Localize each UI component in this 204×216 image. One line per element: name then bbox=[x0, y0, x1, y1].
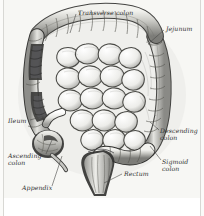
label-jejunum: Jejunum bbox=[166, 25, 193, 32]
label-rectum: Rectum bbox=[124, 170, 149, 177]
label-ascending-colon: Ascending colon bbox=[8, 152, 52, 166]
label-sigmoid-colon-line1: Sigmoid bbox=[162, 158, 188, 165]
plate-bottom-margin bbox=[4, 198, 200, 216]
label-transverse-colon: Transverse colon bbox=[78, 9, 133, 16]
label-sigmoid-colon-line2: colon bbox=[162, 165, 179, 172]
label-descending-colon: Descending colon bbox=[160, 127, 204, 141]
label-ascending-colon-line2: colon bbox=[8, 159, 25, 166]
label-appendix: Appendix bbox=[22, 184, 52, 191]
illustration-figure: Transverse colon Jejunum Descending colo… bbox=[0, 0, 204, 216]
label-ileum: Ileum bbox=[8, 117, 26, 124]
label-descending-colon-line2: colon bbox=[160, 134, 177, 141]
label-sigmoid-colon: Sigmoid colon bbox=[162, 158, 204, 172]
frame-rule-right bbox=[200, 0, 201, 216]
label-descending-colon-line1: Descending bbox=[160, 127, 198, 134]
label-ascending-colon-line1: Ascending bbox=[8, 152, 42, 159]
